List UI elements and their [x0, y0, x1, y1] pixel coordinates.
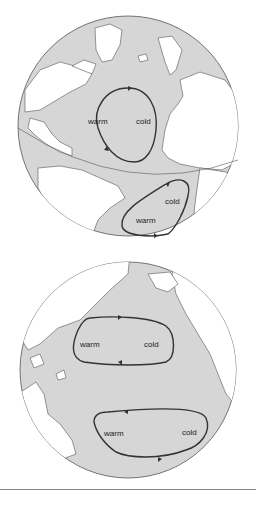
southern-africa — [194, 168, 236, 224]
warm-label: warm — [103, 429, 124, 438]
cold-label: cold — [182, 428, 197, 437]
cold-label: cold — [136, 117, 151, 126]
warm-label: warm — [87, 117, 108, 126]
atlantic-globe-map: warm cold warm cold — [0, 0, 256, 254]
pacific-globe: warm cold warm cold — [0, 254, 256, 486]
atlantic-globe: warm cold warm cold — [0, 0, 256, 254]
warm-label: warm — [79, 340, 100, 349]
divider — [0, 489, 256, 490]
cold-label: cold — [144, 340, 159, 349]
pacific-globe-map: warm cold warm cold — [0, 254, 256, 486]
warm-label: warm — [135, 216, 156, 225]
cold-label: cold — [165, 197, 180, 206]
